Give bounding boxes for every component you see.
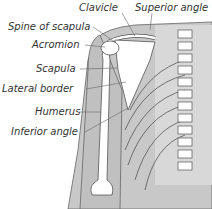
label-scapula: Scapula: [36, 63, 76, 75]
label-clavicle: Clavicle: [79, 2, 118, 14]
label-acromion: Acromion: [32, 39, 80, 51]
anatomy-diagram: Clavicle Superior angle Spine of scapula…: [0, 0, 212, 209]
label-spine-of-scapula: Spine of scapula: [8, 21, 90, 33]
label-inferior-angle: Inferior angle: [11, 126, 78, 138]
label-superior-angle: Superior angle: [135, 2, 208, 14]
label-lateral-border: Lateral border: [2, 83, 73, 95]
label-humerus: Humerus: [35, 106, 80, 118]
